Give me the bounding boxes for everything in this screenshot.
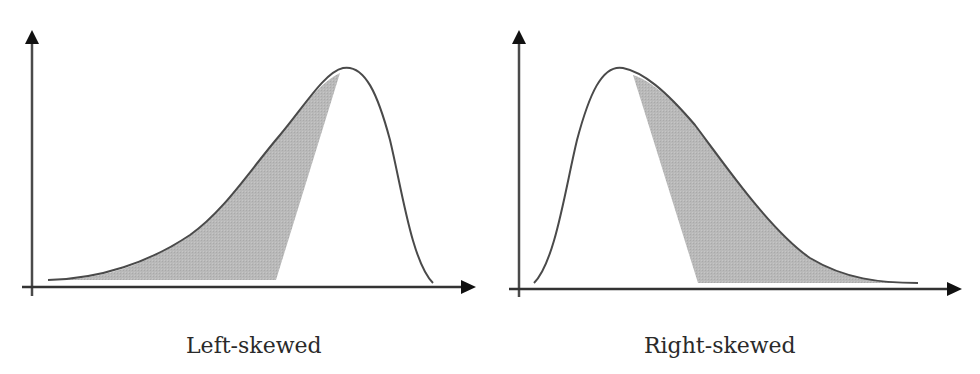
- skewness-figure: [0, 0, 980, 374]
- right-chart-caption: Right-skewed: [644, 333, 796, 358]
- left-x-axis-arrow-icon: [461, 280, 476, 294]
- right-y-axis-arrow-icon: [512, 30, 526, 44]
- right-shaded-area: [633, 75, 918, 283]
- left-shaded-area: [58, 73, 340, 280]
- left-y-axis-arrow-icon: [25, 30, 39, 44]
- left-chart-caption: Left-skewed: [186, 333, 322, 358]
- left-skewed-chart: [22, 30, 476, 296]
- right-skewed-chart: [509, 30, 962, 297]
- right-x-axis-arrow-icon: [947, 282, 962, 296]
